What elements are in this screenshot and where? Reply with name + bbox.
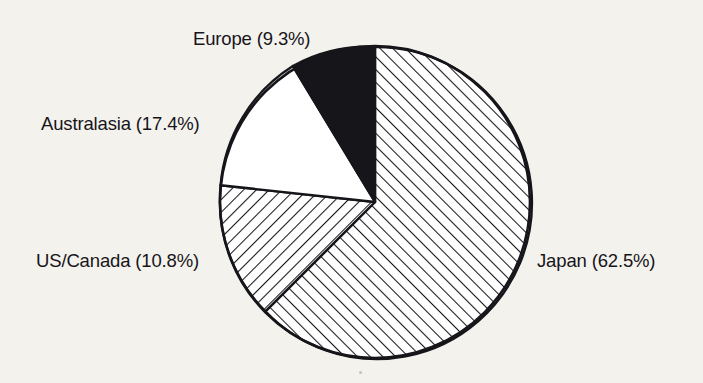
pie-label-us-canada: US/Canada (10.8%) — [36, 252, 199, 271]
pie-label-japan: Japan (62.5%) — [537, 252, 655, 271]
pie-label-australasia: Australasia (17.4%) — [41, 115, 200, 134]
pie-label-europe: Europe (9.3%) — [193, 30, 310, 49]
pie-chart-figure: Europe (9.3%) Australasia (17.4%) US/Can… — [0, 0, 703, 383]
scan-artifact-speck — [359, 371, 362, 374]
pie-chart-canvas — [0, 0, 703, 383]
